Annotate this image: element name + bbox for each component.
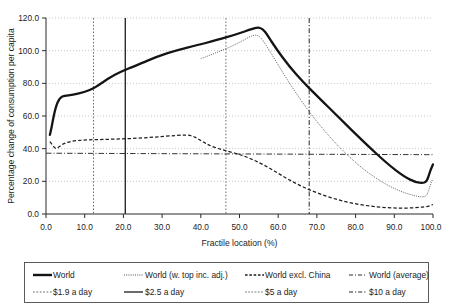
- x-tick-label: 0.0: [40, 222, 52, 232]
- chart-canvas: 120.0 100.0 80.0 60.0 40.0 20.0 0.0 0.0 …: [0, 0, 453, 308]
- legend-item-world[interactable]: World: [33, 270, 75, 280]
- x-axis-title: Fractile location (%): [202, 238, 278, 248]
- x-tick-label: 40.0: [193, 222, 210, 232]
- legend-item-world-top-inc-adj[interactable]: World (w. top inc. adj.): [124, 270, 228, 280]
- x-tick-label: 100.0: [421, 222, 442, 232]
- y-tick-label: 60.0: [23, 111, 40, 121]
- legend-label: World excl. China: [265, 270, 331, 280]
- x-tick-label: 80.0: [348, 222, 365, 232]
- x-tick-label: 30.0: [154, 222, 171, 232]
- y-tick-label: 100.0: [18, 46, 39, 56]
- legend-label: World (w. top inc. adj.): [145, 270, 228, 280]
- legend-label: $10 a day: [369, 287, 407, 297]
- axis-lines: [46, 18, 433, 214]
- y-axis-title: Percentage change of consumption per cap…: [6, 28, 16, 204]
- y-tick-label: 40.0: [23, 144, 40, 154]
- y-tick-label: 0.0: [27, 209, 39, 219]
- y-axis-tick-labels: 120.0 100.0 80.0 60.0 40.0 20.0 0.0: [18, 13, 39, 219]
- legend-label: $1.9 a day: [53, 287, 93, 297]
- y-tick-label: 80.0: [23, 78, 40, 88]
- x-tick-label: 10.0: [77, 222, 94, 232]
- x-axis-ticks: [46, 214, 433, 218]
- x-tick-label: 50.0: [231, 222, 248, 232]
- legend-item-10-a-day[interactable]: $10 a day: [349, 287, 407, 297]
- legend-label: $2.5 a day: [145, 287, 185, 297]
- legend-item-world-average[interactable]: World (average): [349, 270, 429, 280]
- x-axis-tick-labels: 0.0 10.0 20.0 30.0 40.0 50.0 60.0 70.0 8…: [40, 222, 442, 232]
- legend-label: World (average): [369, 270, 429, 280]
- y-axis-ticks: [42, 18, 46, 214]
- x-tick-label: 60.0: [270, 222, 287, 232]
- series-world-excl-china: [50, 135, 433, 208]
- legend-item-2-5-a-day[interactable]: $2.5 a day: [124, 287, 185, 297]
- y-tick-label: 120.0: [18, 13, 39, 23]
- x-tick-label: 70.0: [309, 222, 326, 232]
- x-tick-label: 20.0: [115, 222, 132, 232]
- y-tick-label: 20.0: [23, 176, 40, 186]
- legend-item-world-excl-china[interactable]: World excl. China: [245, 270, 331, 280]
- legend-item-5-a-day[interactable]: $5 a day: [245, 287, 298, 297]
- x-tick-label: 90.0: [386, 222, 403, 232]
- legend-label: World: [53, 270, 75, 280]
- legend-item-1-9-a-day[interactable]: $1.9 a day: [33, 287, 93, 297]
- legend-label: $5 a day: [265, 287, 298, 297]
- chart-legend: World World (w. top inc. adj.) World exc…: [25, 263, 430, 303]
- chart-figure: 120.0 100.0 80.0 60.0 40.0 20.0 0.0 0.0 …: [0, 0, 453, 308]
- horizontal-gridlines: [46, 18, 433, 181]
